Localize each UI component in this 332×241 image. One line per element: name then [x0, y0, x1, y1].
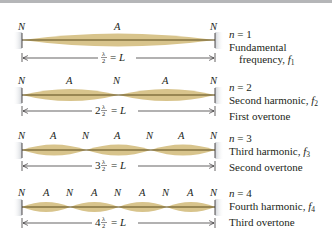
overtone-label: First overtone	[229, 110, 318, 123]
node-label: N	[209, 75, 218, 86]
antinode-label: A	[49, 130, 57, 141]
frac-num: λ	[102, 103, 106, 110]
node-label: N	[113, 187, 122, 198]
right-wall	[215, 142, 224, 159]
mode-description-2: n = 2 Second harmonic, f2 First overtone	[229, 81, 318, 123]
mode-description-4: n = 4 Fourth harmonic, f4 Third overtone	[229, 187, 315, 229]
antinode-label: A	[65, 75, 73, 86]
antinode-label: A	[177, 130, 185, 141]
mode-number: n = 3	[229, 132, 310, 145]
node-label: N	[209, 187, 218, 198]
mode-name: Third harmonic, f3	[229, 145, 310, 162]
dimension-coef: 2	[95, 104, 101, 116]
frac-den: 2	[102, 57, 105, 64]
mode-row-4: N A N A N A N A N 4 λ 2 = L	[13, 187, 224, 229]
mode-name: Fourth harmonic, f4	[229, 200, 315, 217]
dimension-rhs: = L	[110, 51, 125, 63]
node-label: N	[17, 130, 26, 141]
left-wall	[13, 32, 22, 49]
mode-frequency: frequency, f1	[229, 53, 295, 70]
mode-row-1: N A N λ 2 = L	[13, 21, 224, 64]
antinode-label: A	[161, 75, 169, 86]
antinode-label: A	[186, 187, 194, 198]
antinode-label: A	[113, 21, 121, 32]
dimension-coef: 3	[95, 159, 101, 171]
dimension-rhs: = L	[111, 159, 126, 171]
mode-name: Fundamental	[229, 41, 295, 54]
mode-name: Second harmonic, f2	[229, 94, 318, 111]
right-wall	[215, 32, 224, 49]
right-wall	[215, 199, 224, 216]
overtone-label: Third overtone	[229, 216, 315, 229]
dimension-coef: 4	[95, 216, 101, 228]
antinode-label: A	[113, 130, 121, 141]
frac-num: λ	[102, 158, 106, 165]
left-wall	[13, 142, 22, 159]
mode-row-2: N A N A N 2 λ 2 = L	[13, 75, 224, 117]
left-wall	[13, 199, 22, 216]
left-wall	[13, 87, 22, 104]
frac-den: 2	[102, 222, 105, 229]
node-label: N	[209, 21, 218, 32]
node-label: N	[145, 130, 154, 141]
mode-number: n = 4	[229, 187, 315, 200]
mode-number: n = 2	[229, 81, 318, 94]
antinode-label: A	[42, 187, 50, 198]
dimension-rhs: = L	[111, 216, 126, 228]
node-label: N	[17, 21, 26, 32]
mode-description-3: n = 3 Third harmonic, f3 Second overtone	[229, 132, 310, 174]
mode-number: n = 1	[229, 28, 295, 41]
node-label: N	[65, 187, 74, 198]
dimension-rhs: = L	[111, 104, 126, 116]
frac-num: λ	[102, 215, 106, 222]
node-label: N	[17, 187, 26, 198]
frac-den: 2	[102, 165, 105, 172]
node-label: N	[112, 75, 121, 86]
antinode-label: A	[90, 187, 98, 198]
frac-den: 2	[102, 110, 105, 117]
right-wall	[215, 87, 224, 104]
mode-row-3: N A N A N A N 3 λ 2 = L	[13, 130, 224, 172]
antinode-label: A	[138, 187, 146, 198]
node-label: N	[17, 75, 26, 86]
overtone-label: Second overtone	[229, 161, 310, 174]
node-label: N	[209, 130, 218, 141]
frac-num: λ	[102, 50, 106, 57]
node-label: N	[161, 187, 170, 198]
node-label: N	[81, 130, 90, 141]
mode-description-1: n = 1 Fundamental frequency, f1	[229, 28, 295, 70]
